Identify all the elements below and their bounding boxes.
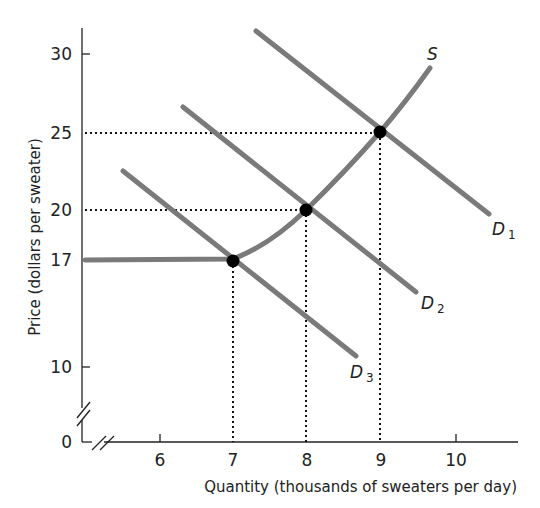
- demand-curve-d1: [256, 31, 489, 214]
- supply-demand-chart: S D1 D2 D3 30 25 20 17 10 0 6 7 8 9 10 Q…: [0, 0, 540, 508]
- svg-text:17: 17: [50, 250, 72, 270]
- svg-text:20: 20: [50, 200, 72, 220]
- svg-text:8: 8: [302, 450, 313, 470]
- svg-text:6: 6: [155, 450, 166, 470]
- axes: [77, 28, 518, 450]
- y-tick-labels: 30 25 20 17 10 0: [50, 44, 72, 452]
- label-d1: D1: [492, 219, 516, 242]
- x-axis-title: Quantity (thousands of sweaters per day): [204, 478, 517, 496]
- label-s: S: [427, 44, 438, 64]
- svg-text:25: 25: [50, 123, 72, 143]
- chart-container: S D1 D2 D3 30 25 20 17 10 0 6 7 8 9 10 Q…: [0, 0, 540, 508]
- label-d2: D2: [421, 293, 445, 316]
- demand-curve-d3: [123, 171, 356, 356]
- svg-text:30: 30: [50, 44, 72, 64]
- svg-text:10: 10: [445, 450, 467, 470]
- svg-text:0: 0: [61, 432, 72, 452]
- x-tick-labels: 6 7 8 9 10: [155, 450, 467, 470]
- svg-text:9: 9: [376, 450, 387, 470]
- label-d3: D3: [350, 362, 374, 385]
- y-axis-title: Price (dollars per sweater): [26, 138, 44, 336]
- svg-text:7: 7: [228, 450, 239, 470]
- x-axis-break-icon: [92, 436, 106, 450]
- y-axis-break-icon: [77, 402, 90, 418]
- svg-text:10: 10: [50, 357, 72, 377]
